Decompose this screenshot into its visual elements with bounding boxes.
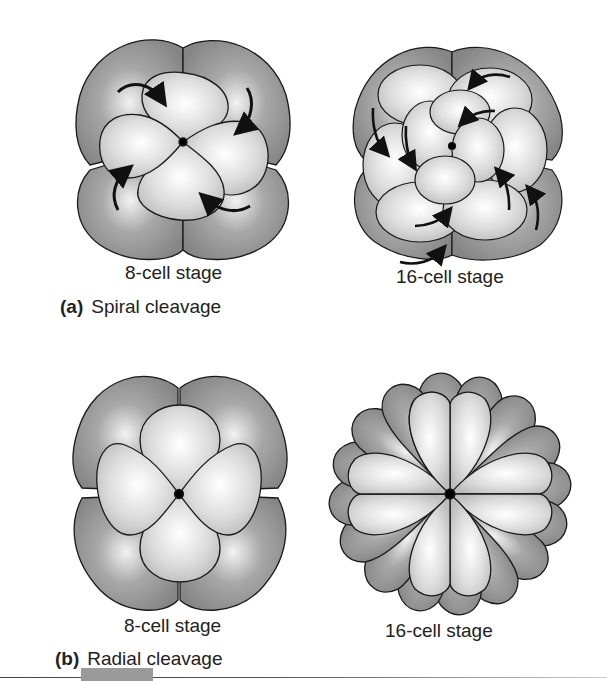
spiral-8-cell-embryo xyxy=(76,40,290,260)
panel-b-caption: (b)Radial cleavage xyxy=(55,648,222,670)
panel-a-title: Spiral cleavage xyxy=(91,296,221,317)
panel-a-caption: (a)Spiral cleavage xyxy=(60,296,221,318)
spiral-16-cell-label: 16-cell stage xyxy=(396,266,504,288)
radial-16-cell-label: 16-cell stage xyxy=(385,620,493,642)
panel-a-letter: (a) xyxy=(60,296,83,317)
spiral-16-cell-embryo xyxy=(353,47,562,260)
radial-8-cell-embryo xyxy=(73,376,287,610)
radial-8-cell-label: 8-cell stage xyxy=(124,615,221,637)
panel-b-title: Radial cleavage xyxy=(87,648,222,669)
cleavage-diagram xyxy=(0,0,607,681)
footer-tab xyxy=(81,668,153,681)
panel-b-letter: (b) xyxy=(55,648,79,669)
spiral-8-cell-label: 8-cell stage xyxy=(125,262,222,284)
radial-16-cell-embryo xyxy=(321,365,579,623)
